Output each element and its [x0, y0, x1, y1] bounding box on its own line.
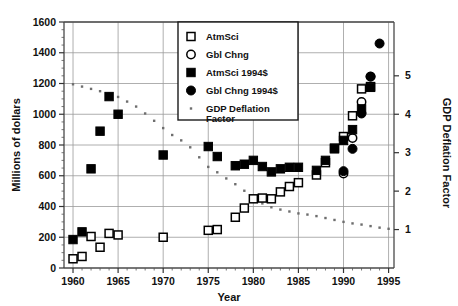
data-point-filled-square [240, 160, 248, 168]
data-point-small-dot [216, 171, 218, 173]
data-point-small-dot [234, 183, 236, 185]
data-point-small-dot [189, 146, 191, 148]
x-axis-tick-label: 1960 [61, 275, 85, 287]
data-point-open-square [240, 204, 248, 212]
data-point-small-dot [369, 225, 371, 227]
legend-label-line2: Factor [206, 113, 235, 124]
y-axis-tick-label: 200 [38, 231, 56, 243]
data-point-small-dot [126, 100, 128, 102]
data-point-small-dot [315, 215, 317, 217]
data-point-filled-square [96, 127, 104, 135]
legend-label: Gbl Chng 1994$ [206, 85, 279, 96]
chart-figure: 0200400600800100012001400160012345196019… [0, 0, 458, 306]
data-point-filled-square [312, 166, 320, 174]
data-point-small-dot [288, 210, 290, 212]
y2-axis-title: GDP Deflation Factor [441, 98, 453, 209]
data-point-filled-square [285, 163, 293, 171]
data-point-open-square [159, 233, 167, 241]
data-point-filled-square [267, 168, 275, 176]
data-point-small-dot [351, 222, 353, 224]
data-point-small-dot [198, 156, 200, 158]
x-axis-tick-label: 1975 [197, 275, 221, 287]
x-axis-tick-label: 1980 [242, 275, 266, 287]
data-point-open-square [358, 85, 366, 93]
legend-marker-open-circle [187, 50, 195, 58]
data-point-small-dot [144, 112, 146, 114]
data-point-filled-square [231, 162, 239, 170]
data-point-small-dot [306, 213, 308, 215]
data-point-filled-square [159, 151, 167, 159]
x-axis-tick-label: 1965 [106, 275, 130, 287]
data-point-open-square [87, 232, 95, 240]
data-point-filled-square [78, 228, 86, 236]
legend-marker-open-square [187, 33, 195, 41]
x-axis-tick-label: 1995 [377, 275, 401, 287]
data-point-open-square [294, 179, 302, 187]
data-point-open-square [276, 188, 284, 196]
data-point-filled-square [339, 136, 347, 144]
data-point-filled-circle [348, 144, 357, 153]
data-point-filled-square [348, 125, 356, 133]
data-point-small-dot [297, 212, 299, 214]
data-point-small-dot [387, 228, 389, 230]
data-point-small-dot [135, 105, 137, 107]
data-point-filled-square [105, 92, 113, 100]
legend-marker-filled-circle [187, 86, 196, 95]
y-axis-tick-label: 1000 [33, 108, 57, 120]
data-point-open-square [231, 213, 239, 221]
y-axis-tick-label: 400 [38, 200, 56, 212]
x-axis-tick-label: 1990 [332, 275, 356, 287]
y2-axis-tick-label: 1 [405, 223, 411, 235]
data-point-small-dot [342, 221, 344, 223]
x-axis-tick-label: 1985 [287, 275, 311, 287]
data-point-small-dot [171, 134, 173, 136]
legend-entry[interactable]: AtmSci [187, 31, 239, 42]
y-axis-title: Millions of dollars [10, 98, 22, 192]
data-point-small-dot [243, 190, 245, 192]
data-point-open-square [258, 194, 266, 202]
data-point-filled-circle [339, 167, 348, 176]
y2-axis-tick-label: 3 [405, 146, 411, 158]
y-axis-tick-label: 1400 [33, 46, 57, 58]
data-point-open-square [96, 243, 104, 251]
data-point-small-dot [360, 223, 362, 225]
y2-axis-tick-label: 4 [405, 108, 411, 120]
data-point-filled-circle [375, 39, 384, 48]
data-point-filled-square [276, 165, 284, 173]
data-point-filled-square [213, 152, 221, 160]
data-point-filled-square [69, 235, 77, 243]
data-point-small-dot [270, 206, 272, 208]
x-axis-tick-label: 1970 [152, 275, 176, 287]
data-point-filled-square [294, 163, 302, 171]
data-point-open-square [213, 226, 221, 234]
data-point-small-dot [333, 219, 335, 221]
data-point-filled-circle [357, 109, 366, 118]
data-point-small-dot [99, 90, 101, 92]
data-point-filled-square [114, 110, 122, 118]
y-axis-tick-label: 1600 [33, 16, 57, 28]
data-point-open-square [78, 252, 86, 260]
y-axis-tick-label: 0 [50, 262, 56, 274]
data-point-filled-square [258, 162, 266, 170]
data-point-filled-square [321, 156, 329, 164]
data-point-open-square [105, 229, 113, 237]
data-point-filled-square [366, 83, 374, 91]
data-point-small-dot [180, 139, 182, 141]
data-point-small-dot [72, 83, 74, 85]
data-point-open-square [285, 183, 293, 191]
data-point-small-dot [90, 88, 92, 90]
y2-axis-tick-label: 5 [405, 69, 411, 81]
chart-legend[interactable]: AtmSciGbl ChngAtmSci 1994$Gbl Chng 1994$… [178, 22, 298, 124]
data-point-small-dot [153, 120, 155, 122]
legend-label: Gbl Chng [206, 49, 249, 60]
data-point-open-square [267, 195, 275, 203]
data-point-filled-square [330, 145, 338, 153]
data-point-small-dot [81, 85, 83, 87]
data-point-small-dot [207, 166, 209, 168]
data-point-small-dot [279, 208, 281, 210]
data-point-open-square [349, 112, 357, 120]
legend-label: AtmSci 1994$ [206, 67, 269, 78]
legend-label: AtmSci [206, 31, 239, 42]
y2-axis-tick-label: 2 [405, 185, 411, 197]
data-point-filled-square [204, 142, 212, 150]
